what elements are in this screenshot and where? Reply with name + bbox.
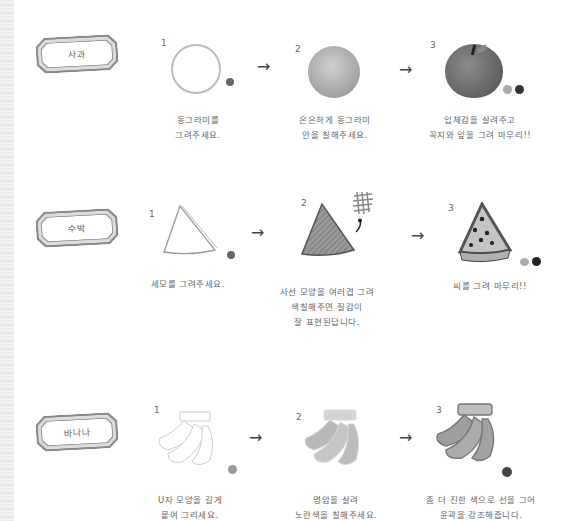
section-label: 바나나 xyxy=(41,418,112,446)
step-caption: 입체감을 살려주고 꼭지와 잎을 그려 마무리!! xyxy=(425,113,535,143)
step-caption: 명암을 살려 노란색을 칠해주세요. xyxy=(286,493,386,521)
section-banana: 바나나 1 U자 모양을 길게 붙여 그리세요. → 2 xyxy=(0,370,569,521)
arrow-icon: → xyxy=(399,62,412,78)
step-caption: 동그라미를 그려주세요. xyxy=(168,113,228,143)
section-watermelon: 수박 1 세모를 그려주세요. → 2 xyxy=(0,180,569,370)
color-swatch xyxy=(503,85,512,94)
step-caption: 은은하게 동그라미 안을 칠해주세요. xyxy=(290,113,380,143)
color-swatch xyxy=(502,467,512,477)
step-caption: 세모를 그려주세요. xyxy=(148,277,228,292)
crosshatch-detail-icon xyxy=(350,190,376,216)
banana-drawing xyxy=(432,402,508,468)
step-caption: 씨를 그려 마무리!! xyxy=(445,279,535,294)
section-label: 사과 xyxy=(41,40,112,68)
color-swatch xyxy=(226,78,234,86)
textured-triangle-drawing xyxy=(298,200,358,260)
step-caption: U자 모양을 길게 붙여 그리세요. xyxy=(150,493,230,521)
step-caption: 좀 더 진한 색으로 선을 그어 윤곽을 강조해줍니다. xyxy=(416,493,546,521)
shaded-banana-drawing xyxy=(300,408,370,470)
color-swatch xyxy=(515,85,524,94)
section-label: 수박 xyxy=(41,214,112,242)
step-number: 2 xyxy=(295,44,301,54)
section-label-frame: 사과 xyxy=(35,34,119,74)
arrow-icon: → xyxy=(249,430,262,446)
arrow-icon: → xyxy=(411,228,424,244)
color-swatch xyxy=(227,251,235,259)
color-swatch xyxy=(520,258,529,266)
section-apple: 사과 1 동그라미를 그려주세요. → 2 은은하게 동그라미 안을 칠해주세요… xyxy=(0,0,569,175)
shaded-circle-drawing xyxy=(308,46,360,98)
step-number: 1 xyxy=(149,209,155,219)
circle-outline-drawing xyxy=(171,44,221,94)
step-number: 1 xyxy=(161,38,167,48)
watermelon-drawing xyxy=(454,202,516,266)
step-number: 3 xyxy=(430,40,436,50)
section-label-frame: 수박 xyxy=(35,208,119,248)
step-caption: 사선 모양을 여러겹 그려 색칠해주면 질감이 잘 표현된답니다. xyxy=(272,285,382,330)
banana-outline-drawing xyxy=(154,410,224,472)
curved-arrow-icon xyxy=(354,218,364,234)
color-swatch xyxy=(228,465,237,474)
section-label-frame: 바나나 xyxy=(35,412,119,452)
step-number: 3 xyxy=(448,203,454,213)
arrow-icon: → xyxy=(257,59,270,75)
color-swatch xyxy=(532,257,541,266)
triangle-outline-drawing xyxy=(160,202,220,262)
arrow-icon: → xyxy=(251,225,264,241)
arrow-icon: → xyxy=(399,430,412,446)
